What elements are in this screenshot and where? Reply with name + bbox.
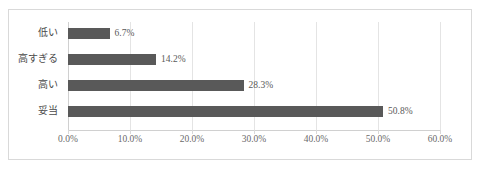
bar-0: [68, 28, 110, 39]
y-label-0: 低い: [38, 27, 58, 38]
bar-value-2: 28.3%: [249, 80, 274, 91]
bar-value-0: 6.7%: [115, 28, 135, 39]
bar-2: [68, 80, 244, 91]
bar-1: [68, 54, 156, 65]
gridline-60: [440, 22, 441, 130]
y-label-1: 高すぎる: [18, 53, 58, 64]
chart-container: 6.7% 14.2% 28.3% 50.8% 低い 高すぎる 高い 妥当 0.0…: [0, 0, 481, 169]
y-label-2: 高い: [38, 79, 58, 90]
x-tick-label-40: 40.0%: [304, 134, 329, 144]
plot-area: 6.7% 14.2% 28.3% 50.8%: [68, 22, 440, 130]
y-label-3: 妥当: [38, 105, 58, 116]
x-tick-label-50: 50.0%: [366, 134, 391, 144]
x-tick-label-30: 30.0%: [242, 134, 267, 144]
bar-value-3: 50.8%: [388, 106, 413, 117]
y-axis-labels: 低い 高すぎる 高い 妥当: [0, 22, 64, 130]
bar-3: [68, 106, 383, 117]
x-tick-label-10: 10.0%: [118, 134, 143, 144]
x-tick-label-20: 20.0%: [180, 134, 205, 144]
bar-value-1: 14.2%: [161, 54, 186, 65]
x-tick-label-0: 0.0%: [58, 134, 78, 144]
x-tick-label-60: 60.0%: [428, 134, 453, 144]
